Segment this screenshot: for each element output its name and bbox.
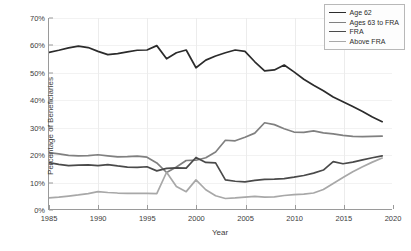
x-tick-mark (196, 205, 197, 209)
legend-item[interactable]: Age 62 (329, 8, 399, 18)
legend-swatch-icon (329, 22, 346, 23)
y-axis-label: Percentage of Beneficiaries (46, 77, 55, 175)
x-tick-mark (344, 205, 345, 209)
y-tick-mark (49, 182, 53, 183)
y-tick-label: 20% (30, 151, 45, 160)
legend-label: FRA (350, 27, 364, 37)
x-tick-label: 1985 (41, 214, 58, 223)
x-tick-label: 2005 (237, 214, 254, 223)
x-tick-mark (295, 205, 296, 209)
series-line-fra (49, 156, 382, 182)
legend-label: Above FRA (350, 37, 386, 47)
legend-label: Ages 63 to FRA (350, 18, 399, 28)
x-tick-mark (49, 205, 50, 209)
y-tick-label: 40% (30, 96, 45, 105)
y-tick-mark (49, 210, 53, 211)
y-tick-label: 50% (30, 68, 45, 77)
x-tick-label: 2015 (336, 214, 353, 223)
legend-swatch-icon (329, 12, 346, 13)
legend: Age 62Ages 63 to FRAFRAAbove FRA (324, 4, 405, 50)
x-tick-mark (246, 205, 247, 209)
x-tick-label: 1995 (139, 214, 156, 223)
x-axis-label: Year (48, 228, 392, 237)
y-tick-mark (49, 72, 53, 73)
legend-item[interactable]: FRA (329, 27, 399, 37)
series-line-age-62 (49, 46, 382, 122)
x-tick-label: 1990 (90, 214, 107, 223)
figure: 0%10%20%30%40%50%60%70%19851990199520002… (0, 0, 411, 251)
x-tick-mark (98, 205, 99, 209)
legend-item[interactable]: Ages 63 to FRA (329, 18, 399, 28)
x-tick-label: 2020 (385, 214, 402, 223)
y-tick-mark (49, 45, 53, 46)
legend-item[interactable]: Above FRA (329, 37, 399, 47)
y-tick-label: 30% (30, 123, 45, 132)
x-tick-mark (147, 205, 148, 209)
y-tick-label: 60% (30, 41, 45, 50)
y-tick-mark (49, 18, 53, 19)
x-tick-mark (393, 205, 394, 209)
legend-label: Age 62 (350, 8, 372, 18)
y-tick-label: 70% (30, 14, 45, 23)
legend-swatch-icon (329, 41, 346, 42)
y-tick-label: 10% (30, 178, 45, 187)
x-tick-label: 2010 (286, 214, 303, 223)
legend-swatch-icon (329, 31, 346, 32)
x-tick-label: 2000 (188, 214, 205, 223)
